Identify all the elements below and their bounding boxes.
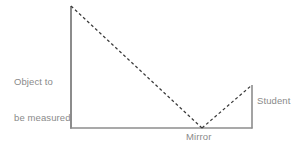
object-label: Object to be measured	[14, 52, 71, 148]
object-label-line-1: Object to	[14, 76, 71, 88]
object-label-line-2: be measured	[14, 112, 71, 124]
mirror-reflection-diagram: Object to be measured Student Mirror	[0, 0, 298, 151]
incident-ray-dashed-line	[71, 6, 202, 128]
student-label: Student	[257, 95, 290, 107]
reflected-ray-dashed-line	[202, 85, 252, 128]
mirror-label: Mirror	[186, 131, 211, 143]
